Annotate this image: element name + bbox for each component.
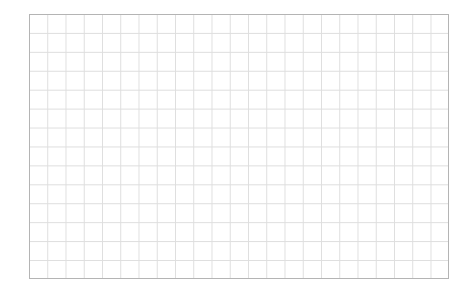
empty-grid	[29, 14, 449, 279]
